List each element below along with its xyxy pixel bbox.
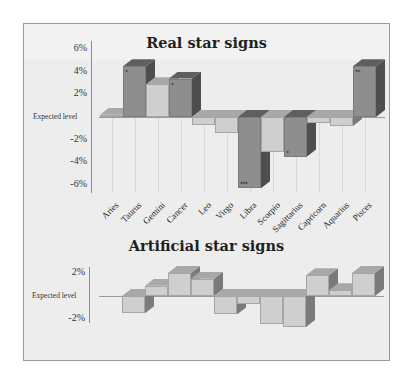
vertical-gridline bbox=[158, 117, 159, 193]
y-tick-label: 4% bbox=[47, 65, 87, 76]
bar-4 bbox=[191, 279, 214, 296]
vertical-gridline bbox=[204, 117, 205, 193]
vertical-gridline bbox=[365, 117, 366, 193]
vertical-gridline bbox=[181, 117, 182, 193]
x-tick-label-pisces: Pisces bbox=[351, 200, 374, 223]
bar-aquarius bbox=[330, 117, 353, 126]
y-tick-label: -2% bbox=[45, 312, 85, 323]
significance-marker: * bbox=[125, 68, 128, 75]
y-tick-label: -4% bbox=[47, 155, 87, 166]
significance-marker: ** bbox=[355, 68, 360, 75]
y-tick-label: -2% bbox=[47, 133, 87, 144]
bar-capricorn bbox=[307, 117, 330, 123]
x-tick-label-taurus: Taurus bbox=[119, 200, 143, 224]
bar-libra bbox=[238, 117, 261, 188]
y-tick-label: 2% bbox=[45, 266, 85, 277]
bar-5 bbox=[214, 296, 237, 314]
bar-11 bbox=[352, 273, 375, 296]
y-tick-label: 6% bbox=[47, 42, 87, 53]
expected-level-label: Expected level bbox=[32, 291, 76, 300]
vertical-gridline bbox=[342, 117, 343, 193]
bar-10 bbox=[329, 290, 352, 296]
bar-scorpio bbox=[261, 117, 284, 152]
x-tick-label-aries: Aries bbox=[100, 200, 121, 221]
bar-virgo bbox=[215, 117, 238, 133]
vertical-gridline bbox=[319, 117, 320, 193]
x-tick-label-virgo: Virgo bbox=[214, 200, 235, 221]
bar-3 bbox=[168, 273, 191, 296]
bar-6 bbox=[237, 296, 260, 304]
expected-level-label: Expected level bbox=[33, 112, 77, 121]
y-axis-line bbox=[91, 41, 92, 193]
vertical-gridline bbox=[135, 117, 136, 193]
y-axis-line bbox=[89, 267, 90, 323]
bar-7 bbox=[260, 296, 283, 324]
bar-1 bbox=[122, 296, 145, 313]
bar-2 bbox=[145, 286, 168, 296]
chart-frame: Real star signs Artificial star signs 6%… bbox=[23, 23, 390, 361]
vertical-gridline bbox=[112, 117, 113, 193]
chart-title-artificial: Artificial star signs bbox=[24, 237, 389, 254]
bar-leo bbox=[192, 117, 215, 125]
bar-gemini bbox=[146, 84, 169, 117]
y-tick-label: -6% bbox=[47, 178, 87, 189]
bar-side-face bbox=[192, 72, 201, 117]
bar-aries bbox=[100, 115, 123, 117]
bar-side-face bbox=[376, 59, 385, 117]
significance-marker: * bbox=[286, 149, 289, 156]
y-tick-label: 2% bbox=[47, 87, 87, 98]
bar-8 bbox=[283, 296, 306, 327]
significance-marker: * bbox=[171, 81, 174, 88]
x-tick-label-gemini: Gemini bbox=[140, 200, 166, 226]
significance-marker: *** bbox=[240, 180, 248, 187]
x-tick-label-leo: Leo bbox=[196, 200, 213, 217]
x-tick-label-cancer: Cancer bbox=[164, 200, 189, 225]
bar-9 bbox=[306, 275, 329, 296]
